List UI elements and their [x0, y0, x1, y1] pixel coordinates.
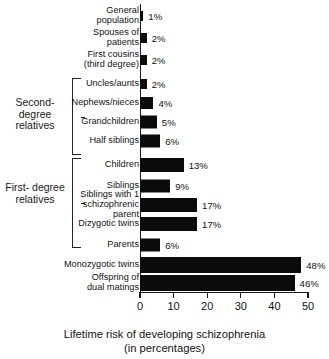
bar	[140, 198, 197, 212]
bar-row: Grandchildren5%	[0, 114, 329, 130]
x-tick-label: 40	[259, 300, 289, 312]
bar-value-label: 2%	[152, 33, 166, 44]
bar-row-label: Grandchildren	[29, 117, 139, 127]
bar-row-label: Half siblings	[29, 136, 139, 146]
bar-value-label: 4%	[158, 98, 172, 109]
bar-row: Parents6%	[0, 237, 329, 253]
bar-value-label: 48%	[306, 260, 325, 271]
bar-row: Siblings with 1 schizophrenic parent17%	[0, 197, 329, 213]
bar-row-label: Offspring of dual matings	[29, 273, 139, 293]
x-tick	[173, 292, 174, 298]
x-tick	[307, 292, 308, 298]
bar-row: Children13%	[0, 157, 329, 173]
bar-row-label: Monozygotic twins	[29, 260, 139, 270]
bar	[140, 33, 147, 43]
bar-row-label: Nephews/nieces	[29, 98, 139, 108]
bar-value-label: 2%	[152, 55, 166, 66]
bar-value-label: 46%	[300, 278, 319, 289]
x-tick-label: 0	[125, 300, 155, 312]
bar-row: Nephews/nieces4%	[0, 95, 329, 111]
x-tick	[139, 292, 140, 298]
plot-area: General population1%Spouses of patients2…	[0, 0, 329, 300]
bar	[140, 217, 197, 231]
bar-value-label: 17%	[202, 200, 221, 211]
bar	[140, 158, 184, 172]
x-tick	[274, 292, 275, 298]
bar	[140, 97, 153, 109]
bar	[140, 239, 160, 252]
bar-row: Uncles/aunts2%	[0, 76, 329, 92]
x-axis-line	[140, 292, 309, 293]
bar-value-label: 9%	[175, 181, 189, 192]
bar-row-label: Uncles/aunts	[29, 79, 139, 89]
bar-row: First cousins (third degree)2%	[0, 52, 329, 68]
bar	[140, 135, 160, 148]
bar	[140, 116, 157, 129]
x-tick-label: 20	[192, 300, 222, 312]
bar-row: Dizygotic twins17%	[0, 216, 329, 232]
bar-row-label: General population	[29, 6, 139, 26]
bar-row-label: Parents	[29, 240, 139, 250]
bar-row-label: First cousins (third degree)	[29, 50, 139, 70]
bar-row: Spouses of patients2%	[0, 30, 329, 46]
bar-value-label: 17%	[202, 219, 221, 230]
bar-row-label: Spouses of patients	[29, 28, 139, 48]
x-tick-label: 30	[226, 300, 256, 312]
bar-value-label: 6%	[165, 136, 179, 147]
bar	[140, 11, 143, 21]
bar-row-label: Dizygotic twins	[29, 219, 139, 229]
bar-row-label: Children	[29, 160, 139, 170]
bar-row: Half siblings6%	[0, 133, 329, 149]
x-axis-title: Lifetime risk of developing schizophreni…	[0, 328, 329, 355]
bar-row: Monozygotic twins48%	[0, 257, 329, 273]
bar	[140, 79, 147, 89]
bar-value-label: 6%	[165, 240, 179, 251]
bar-value-label: 1%	[148, 11, 162, 22]
bar	[140, 55, 147, 65]
bar-row: Offspring of dual matings46%	[0, 275, 329, 291]
bar-value-label: 5%	[162, 117, 176, 128]
bar-value-label: 13%	[189, 160, 208, 171]
schizophrenia-risk-bar-chart: Second- degree relatives First- degree r…	[0, 0, 329, 359]
x-tick-label: 50	[293, 300, 323, 312]
bar	[140, 275, 295, 291]
x-tick-label: 10	[159, 300, 189, 312]
bar	[140, 257, 301, 273]
bar-row: General population1%	[0, 8, 329, 24]
x-tick	[240, 292, 241, 298]
x-tick	[207, 292, 208, 298]
bar-value-label: 2%	[152, 79, 166, 90]
bar	[140, 180, 170, 193]
